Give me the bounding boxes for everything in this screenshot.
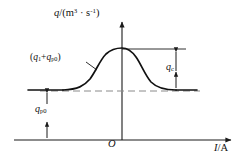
y-axis-label-unit-open: /(m bbox=[59, 7, 74, 18]
y-axis-label: q/(m3 · s-1) bbox=[54, 8, 99, 19]
figure-container: q/(m3 · s-1) I/A O (q1+qp0) qc qp0 bbox=[0, 0, 244, 163]
qp0-measure-label: qp0 bbox=[35, 104, 47, 115]
y-axis-label-dot-s: · s bbox=[77, 7, 90, 18]
peak-label-leader-line bbox=[86, 62, 97, 70]
x-axis-label-unit: /A bbox=[218, 142, 229, 153]
plot-svg bbox=[0, 0, 244, 163]
flow-rate-curve bbox=[63, 48, 176, 90]
y-axis-label-close: ) bbox=[96, 7, 100, 18]
peak-value-label: (q1+qp0) bbox=[30, 53, 61, 63]
peak-label-close-paren: ) bbox=[57, 52, 60, 62]
origin-label: O bbox=[108, 139, 116, 150]
x-axis-label: I/A bbox=[214, 143, 228, 154]
qc-label-subscript: c bbox=[171, 65, 174, 72]
qp0-label-subscript: p0 bbox=[40, 107, 47, 114]
qc-measure-label: qc bbox=[166, 62, 174, 73]
